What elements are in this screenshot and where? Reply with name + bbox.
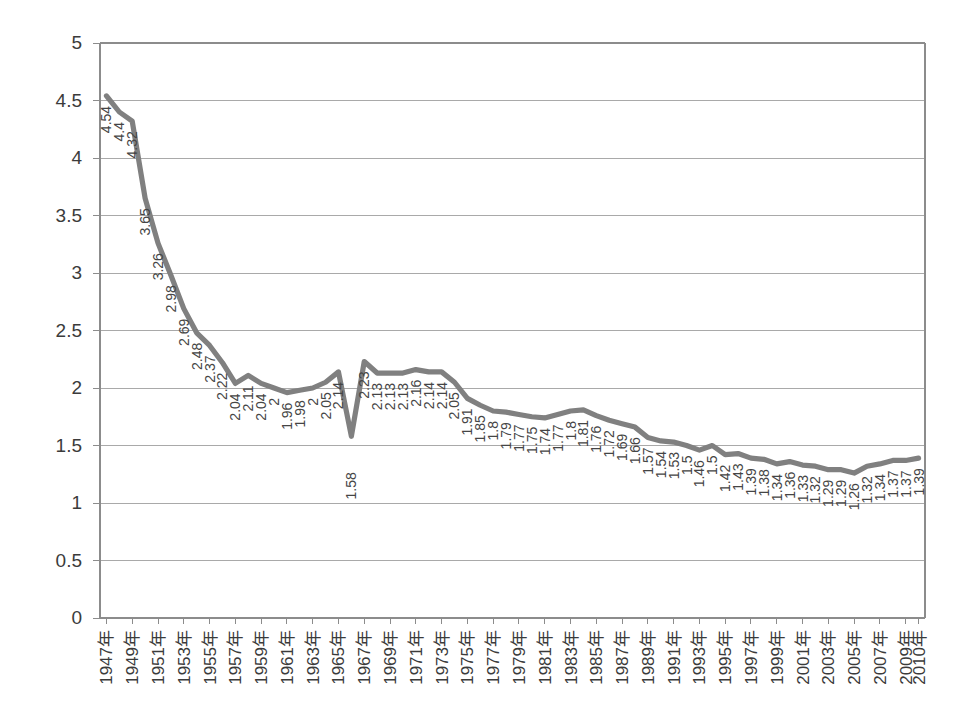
x-axis-tick-label: 1995年 (716, 630, 735, 685)
x-axis-tick-labels: 1947年1949年1951年1953年1955年1957年1959年1961年… (97, 630, 928, 685)
x-axis-tick-label: 2003年 (819, 630, 838, 685)
y-axis-tick-label: 5 (71, 32, 82, 53)
x-axis-tick-label: 1997年 (742, 630, 761, 685)
y-axis-tick-labels: 00.511.522.533.544.55 (56, 32, 100, 628)
y-axis-tick-label: 4 (71, 147, 82, 168)
x-axis-tick-label: 1979年 (510, 630, 529, 685)
x-axis-tick-label: 1999年 (768, 630, 787, 685)
x-axis-tick-label: 1963年 (304, 630, 323, 685)
y-axis-tick-label: 3 (71, 262, 82, 283)
x-axis-tick-label: 1975年 (458, 630, 477, 685)
data-point-label: 2.98 (163, 285, 179, 312)
x-axis-tick-label: 2010年 (910, 630, 929, 685)
y-axis-tick-label: 2.5 (56, 320, 82, 341)
x-axis-tick-label: 1953年 (175, 630, 194, 685)
x-axis-tick-label: 1985年 (587, 630, 606, 685)
data-point-label: 2.69 (176, 318, 192, 345)
x-axis-tick-label: 1947年 (97, 630, 116, 685)
x-axis-tick-label: 1983年 (562, 630, 581, 685)
data-point-label: 1.39 (911, 468, 927, 495)
x-axis-tick-label: 1977年 (484, 630, 503, 685)
x-axis-tick-label: 1981年 (536, 630, 555, 685)
x-axis-tick-label: 1993年 (690, 630, 709, 685)
chart-container: 00.511.522.533.544.55 1947年1949年1951年195… (0, 0, 977, 717)
data-point-label: 3.26 (150, 253, 166, 280)
line-chart: 00.511.522.533.544.55 1947年1949年1951年195… (0, 0, 977, 717)
grid-lines (100, 43, 925, 618)
x-axis-tick-label: 2007年 (871, 630, 890, 685)
x-axis-tick-label: 1951年 (149, 630, 168, 685)
data-point-label: 2.04 (253, 393, 269, 420)
x-axis-tick-label: 1961年 (278, 630, 297, 685)
y-axis-tick-label: 4.5 (56, 90, 82, 111)
y-axis-tick-label: 0 (71, 607, 82, 628)
data-point-label: 3.65 (137, 208, 153, 235)
x-axis-tick-marks (106, 618, 918, 624)
data-point-label: 1.58 (343, 472, 359, 499)
x-axis-tick-label: 2005年 (845, 630, 864, 685)
x-axis-tick-label: 1987年 (613, 630, 632, 685)
x-axis-tick-label: 1955年 (201, 630, 220, 685)
y-axis-tick-label: 1.5 (56, 435, 82, 456)
x-axis-tick-label: 1959年 (252, 630, 271, 685)
data-point-label: 2.14 (330, 382, 346, 409)
x-axis-tick-label: 1957年 (226, 630, 245, 685)
x-axis-tick-label: 1965年 (329, 630, 348, 685)
x-axis-tick-label: 1991年 (665, 630, 684, 685)
x-axis-tick-label: 2001年 (794, 630, 813, 685)
x-axis-tick-label: 1989年 (639, 630, 658, 685)
data-point-labels: 4.544.44.323.653.262.982.692.482.372.222… (98, 106, 926, 511)
y-axis-tick-label: 2 (71, 377, 82, 398)
x-axis-tick-label: 1969年 (381, 630, 400, 685)
x-axis-tick-label: 1949年 (123, 630, 142, 685)
x-axis-tick-label: 1967年 (355, 630, 374, 685)
y-axis-tick-label: 0.5 (56, 550, 82, 571)
y-axis-tick-label: 1 (71, 492, 82, 513)
x-axis-tick-label: 1971年 (407, 630, 426, 685)
data-point-label: 4.32 (124, 131, 140, 158)
y-axis-tick-label: 3.5 (56, 205, 82, 226)
x-axis-tick-label: 1973年 (433, 630, 452, 685)
